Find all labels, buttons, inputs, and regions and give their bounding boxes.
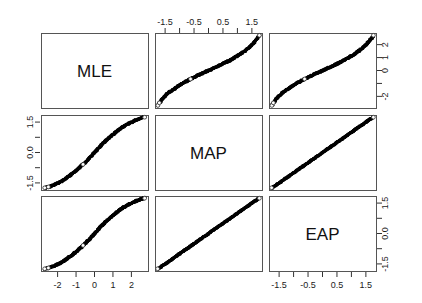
axis-tick-label: -0.5: [300, 280, 316, 290]
bottom_col1: -2-1012: [54, 272, 134, 290]
panel-map-map: MAP: [156, 116, 263, 191]
highlighted-point: [143, 196, 147, 200]
axis-tick-label: 0.5: [331, 280, 344, 290]
highlighted-point: [372, 115, 376, 119]
top_col2: -1.5-0.50.51.5: [157, 17, 258, 33]
highlighted-point: [189, 77, 193, 81]
axis-tick-label: -1.5: [271, 280, 287, 290]
highlighted-point: [372, 33, 376, 37]
highlighted-point: [81, 244, 85, 248]
axis-tick-label: 0.5: [217, 17, 230, 27]
panel-eap-map: [156, 196, 263, 271]
axis-tick-label: -0.5: [186, 17, 202, 27]
diagonal-label-mle: MLE: [77, 62, 112, 81]
axis-tick-label: 1.5: [246, 17, 259, 27]
highlighted-point: [258, 196, 262, 200]
axis-tick-label: -1.5: [25, 175, 35, 191]
highlighted-point: [46, 185, 50, 189]
axis-tick-label: 0.0: [380, 227, 390, 240]
axis-tick-label: -2: [380, 92, 390, 100]
axis-tick-label: 0: [92, 280, 97, 290]
highlighted-point: [81, 163, 85, 167]
panel-mle-eap: [270, 33, 377, 108]
diagonal-label-map: MAP: [190, 144, 227, 163]
highlighted-point: [270, 186, 274, 190]
panel-map-mle: [42, 115, 149, 191]
axis-tick-label: 2: [129, 280, 134, 290]
highlighted-point: [43, 186, 47, 190]
highlighted-point: [271, 101, 275, 105]
pairs-plot-canvas: MLEMAPEAP-1.5-0.50.51.5-20121.50.0-1.51.…: [0, 0, 422, 303]
axis-tick-label: -2: [54, 280, 62, 290]
axis-tick-label: 1.5: [25, 116, 35, 129]
highlighted-point: [156, 267, 160, 271]
highlighted-point: [258, 33, 262, 37]
left_row2: 1.50.0-1.5: [25, 116, 40, 191]
axis-tick-label: 1: [110, 280, 115, 290]
panel-eap-eap: EAP: [270, 197, 377, 272]
axis-tick-label: -1.5: [380, 256, 390, 272]
diagonal-label-eap: EAP: [305, 225, 339, 244]
axis-tick-label: 1.5: [360, 280, 373, 290]
highlighted-point: [46, 266, 50, 270]
highlighted-point: [43, 267, 47, 271]
axis-tick-label: 2: [380, 42, 390, 47]
right_row3: 1.50.0-1.5: [377, 197, 390, 272]
panel-eap-mle: [42, 196, 149, 272]
axis-tick-label: 0: [380, 68, 390, 73]
highlighted-point: [157, 101, 161, 105]
axis-tick-label: 1.5: [380, 197, 390, 210]
bottom_col3: -1.5-0.50.51.5: [271, 272, 372, 290]
highlighted-point: [303, 77, 307, 81]
axis-tick-label: -1: [72, 280, 80, 290]
right_row1: -2012: [377, 42, 390, 100]
axis-tick-label: -1.5: [157, 17, 173, 27]
panel-mle-map: [156, 33, 263, 108]
axis-tick-label: 1: [380, 55, 390, 60]
axis-tick-label: 0.0: [25, 146, 35, 159]
panel-map-eap: [270, 115, 377, 191]
scatterplot-matrix-figure: MLEMAPEAP-1.5-0.50.51.5-20121.50.0-1.51.…: [0, 0, 422, 303]
highlighted-point: [143, 115, 147, 119]
panel-mle-mle: MLE: [42, 34, 149, 109]
